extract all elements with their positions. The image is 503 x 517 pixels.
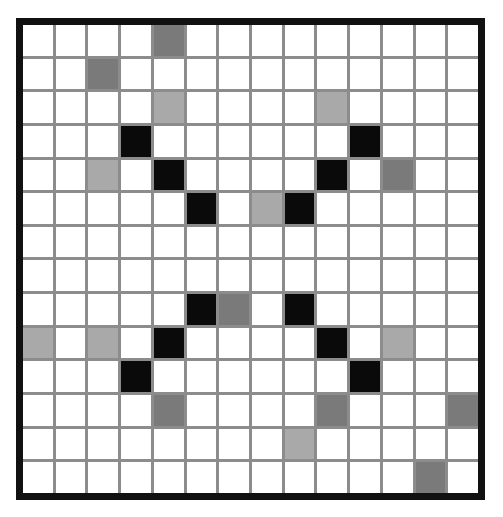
grid-cell-r8-c11[interactable] (383, 294, 413, 325)
grid-cell-r7-c13[interactable] (448, 260, 478, 291)
grid-cell-r7-c10[interactable] (350, 260, 380, 291)
grid-cell-r8-c5[interactable] (187, 294, 217, 325)
grid-cell-r3-c11[interactable] (383, 126, 413, 157)
grid-cell-r10-c9[interactable] (317, 361, 347, 392)
grid-cell-r12-c3[interactable] (121, 429, 151, 460)
grid-cell-r12-c7[interactable] (252, 429, 282, 460)
grid-cell-r10-c13[interactable] (448, 361, 478, 392)
grid-cell-r13-c3[interactable] (121, 462, 151, 493)
grid-cell-r2-c11[interactable] (383, 92, 413, 123)
grid-cell-r12-c12[interactable] (416, 429, 446, 460)
grid-cell-r13-c11[interactable] (383, 462, 413, 493)
grid-cell-r13-c1[interactable] (56, 462, 86, 493)
grid-cell-r11-c4[interactable] (154, 395, 184, 426)
grid-cell-r1-c9[interactable] (317, 59, 347, 90)
grid-cell-r5-c1[interactable] (56, 193, 86, 224)
grid-cell-r6-c0[interactable] (23, 227, 53, 258)
grid-cell-r6-c12[interactable] (416, 227, 446, 258)
grid-cell-r13-c9[interactable] (317, 462, 347, 493)
grid-cell-r10-c5[interactable] (187, 361, 217, 392)
grid-cell-r2-c8[interactable] (285, 92, 315, 123)
grid-cell-r6-c4[interactable] (154, 227, 184, 258)
grid-cell-r9-c6[interactable] (219, 328, 249, 359)
grid-cell-r6-c6[interactable] (219, 227, 249, 258)
grid-cell-r11-c7[interactable] (252, 395, 282, 426)
grid-cell-r0-c3[interactable] (121, 25, 151, 56)
grid-cell-r10-c1[interactable] (56, 361, 86, 392)
grid-cell-r8-c13[interactable] (448, 294, 478, 325)
grid-cell-r5-c6[interactable] (219, 193, 249, 224)
grid-cell-r4-c6[interactable] (219, 160, 249, 191)
grid-cell-r8-c6[interactable] (219, 294, 249, 325)
grid-cell-r12-c10[interactable] (350, 429, 380, 460)
grid-cell-r10-c10[interactable] (350, 361, 380, 392)
grid-cell-r13-c6[interactable] (219, 462, 249, 493)
grid-cell-r8-c7[interactable] (252, 294, 282, 325)
grid-cell-r11-c10[interactable] (350, 395, 380, 426)
grid-cell-r3-c10[interactable] (350, 126, 380, 157)
grid-cell-r5-c0[interactable] (23, 193, 53, 224)
grid-cell-r9-c5[interactable] (187, 328, 217, 359)
grid-cell-r0-c5[interactable] (187, 25, 217, 56)
grid-cell-r10-c8[interactable] (285, 361, 315, 392)
grid-cell-r11-c3[interactable] (121, 395, 151, 426)
grid-cell-r12-c2[interactable] (88, 429, 118, 460)
grid-cell-r13-c0[interactable] (23, 462, 53, 493)
grid-cell-r12-c13[interactable] (448, 429, 478, 460)
grid-cell-r13-c8[interactable] (285, 462, 315, 493)
grid-cell-r1-c3[interactable] (121, 59, 151, 90)
grid-cell-r6-c8[interactable] (285, 227, 315, 258)
grid-cell-r9-c7[interactable] (252, 328, 282, 359)
grid-cell-r7-c7[interactable] (252, 260, 282, 291)
grid-cell-r12-c1[interactable] (56, 429, 86, 460)
grid-cell-r4-c9[interactable] (317, 160, 347, 191)
grid-cell-r4-c3[interactable] (121, 160, 151, 191)
grid-cell-r13-c12[interactable] (416, 462, 446, 493)
grid-cell-r4-c11[interactable] (383, 160, 413, 191)
grid-cell-r7-c11[interactable] (383, 260, 413, 291)
grid-cell-r11-c9[interactable] (317, 395, 347, 426)
grid-cell-r9-c0[interactable] (23, 328, 53, 359)
grid-cell-r7-c8[interactable] (285, 260, 315, 291)
grid-cell-r9-c10[interactable] (350, 328, 380, 359)
grid-cell-r11-c5[interactable] (187, 395, 217, 426)
grid-cell-r1-c5[interactable] (187, 59, 217, 90)
grid-cell-r0-c10[interactable] (350, 25, 380, 56)
grid-cell-r6-c13[interactable] (448, 227, 478, 258)
grid-cell-r4-c0[interactable] (23, 160, 53, 191)
grid-cell-r10-c4[interactable] (154, 361, 184, 392)
grid-cell-r9-c9[interactable] (317, 328, 347, 359)
grid-cell-r1-c7[interactable] (252, 59, 282, 90)
grid-cell-r2-c5[interactable] (187, 92, 217, 123)
grid-cell-r0-c7[interactable] (252, 25, 282, 56)
grid-cell-r8-c0[interactable] (23, 294, 53, 325)
grid-cell-r0-c1[interactable] (56, 25, 86, 56)
grid-cell-r10-c12[interactable] (416, 361, 446, 392)
grid-cell-r3-c1[interactable] (56, 126, 86, 157)
grid-cell-r5-c11[interactable] (383, 193, 413, 224)
grid-cell-r2-c10[interactable] (350, 92, 380, 123)
grid-cell-r1-c2[interactable] (88, 59, 118, 90)
grid-cell-r2-c3[interactable] (121, 92, 151, 123)
grid-cell-r3-c0[interactable] (23, 126, 53, 157)
grid-cell-r12-c6[interactable] (219, 429, 249, 460)
grid-cell-r1-c1[interactable] (56, 59, 86, 90)
grid-cell-r0-c0[interactable] (23, 25, 53, 56)
grid-cell-r4-c13[interactable] (448, 160, 478, 191)
grid-cell-r10-c11[interactable] (383, 361, 413, 392)
grid-cell-r6-c11[interactable] (383, 227, 413, 258)
grid-cell-r3-c4[interactable] (154, 126, 184, 157)
grid-cell-r12-c8[interactable] (285, 429, 315, 460)
grid-cell-r9-c1[interactable] (56, 328, 86, 359)
grid-cell-r1-c12[interactable] (416, 59, 446, 90)
grid-cell-r11-c8[interactable] (285, 395, 315, 426)
grid-cell-r5-c9[interactable] (317, 193, 347, 224)
grid-cell-r5-c5[interactable] (187, 193, 217, 224)
grid-cell-r7-c6[interactable] (219, 260, 249, 291)
grid-cell-r10-c6[interactable] (219, 361, 249, 392)
grid-cell-r7-c2[interactable] (88, 260, 118, 291)
grid-cell-r0-c13[interactable] (448, 25, 478, 56)
grid-cell-r3-c5[interactable] (187, 126, 217, 157)
grid-cell-r6-c1[interactable] (56, 227, 86, 258)
grid-cell-r9-c4[interactable] (154, 328, 184, 359)
